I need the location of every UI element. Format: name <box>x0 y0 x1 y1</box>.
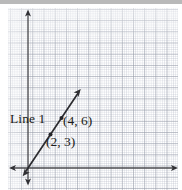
graph-overlay <box>0 0 182 190</box>
graph-figure: Line 1 (4, 6) (2, 3) <box>0 0 182 190</box>
y-axis <box>25 10 31 186</box>
point-label-4-6: (4, 6) <box>63 113 92 129</box>
line-1-end-arrow <box>74 89 81 97</box>
line-1-start-arrow <box>23 168 30 176</box>
point-label-2-3: (2, 3) <box>46 134 75 150</box>
x-axis <box>9 165 178 171</box>
line-1-label: Line 1 <box>10 111 45 127</box>
line-1 <box>23 89 81 176</box>
